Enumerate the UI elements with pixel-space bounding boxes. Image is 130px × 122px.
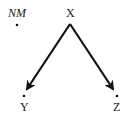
node-label-nm: NM xyxy=(8,7,26,19)
node-label-x: X xyxy=(66,7,75,19)
node-dot-nm xyxy=(16,24,19,27)
node-label-y: Y xyxy=(20,101,29,113)
node-dot-y xyxy=(23,95,26,98)
node-dot-z xyxy=(116,95,119,98)
edge-x-to-y xyxy=(27,24,70,89)
node-label-z: Z xyxy=(113,101,120,113)
diagram-canvas: NM X Y Z xyxy=(0,0,130,122)
edge-x-to-z xyxy=(70,24,113,89)
